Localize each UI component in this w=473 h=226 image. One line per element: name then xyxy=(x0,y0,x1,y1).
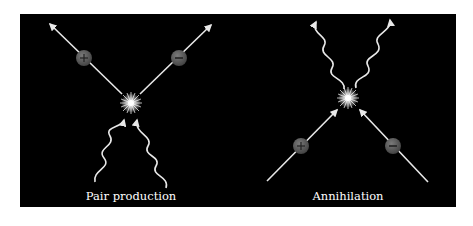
diagram-stage: Pair production Annihilation xyxy=(0,0,473,226)
photon-outgoing-left xyxy=(315,22,344,89)
feynman-diagrams xyxy=(0,0,473,226)
photon-incoming-right xyxy=(137,120,167,188)
pair-production-diagram xyxy=(50,24,211,188)
interaction-flash-icon xyxy=(120,92,142,114)
annihilation-diagram xyxy=(267,20,428,182)
annihilation-label: Annihilation xyxy=(312,189,383,203)
photon-outgoing-right xyxy=(356,20,391,88)
pair-production-label: Pair production xyxy=(86,189,177,203)
electron-icon xyxy=(171,50,187,66)
positron-icon xyxy=(293,138,309,154)
photon-incoming-left xyxy=(95,120,124,182)
positron-icon xyxy=(76,50,92,66)
interaction-flash-icon xyxy=(337,87,359,109)
electron-icon xyxy=(385,138,401,154)
